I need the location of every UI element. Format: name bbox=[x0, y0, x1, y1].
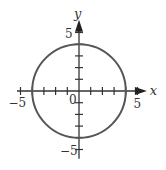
x-axis-label: x bbox=[150, 83, 158, 98]
y-axis-arrow-icon bbox=[75, 20, 83, 32]
y-pos-tick-label: 5 bbox=[65, 27, 73, 41]
x-neg-tick-label: −5 bbox=[9, 96, 27, 110]
coordinate-plane: x y 0 −5 5 5 −5 bbox=[0, 0, 166, 170]
origin-label: 0 bbox=[69, 93, 77, 107]
y-axis-label: y bbox=[73, 6, 82, 21]
x-axis-arrow-icon bbox=[135, 87, 147, 95]
y-neg-tick-label: −5 bbox=[60, 144, 78, 158]
x-pos-tick-label: 5 bbox=[134, 97, 142, 111]
